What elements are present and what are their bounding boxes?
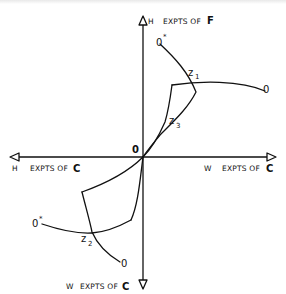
lower-o-star-label: 0 <box>32 218 38 229</box>
lower-o-star-sup: * <box>39 215 43 223</box>
arrow-down-icon <box>139 280 147 289</box>
z3-sub: 3 <box>176 122 180 130</box>
z1-label: z <box>188 67 193 78</box>
axis-up-letter: F <box>207 15 214 26</box>
z3-label: z <box>169 115 174 126</box>
axis-up-text: EXPTS OF <box>163 17 201 26</box>
z2-sub: 2 <box>88 240 92 248</box>
origin-label: 0 <box>132 144 139 155</box>
offer-curve-diagram: 0 H EXPTS OF F H EXPTS OF C W EXPTS OF C… <box>0 0 286 294</box>
axis-down-text: EXPTS OF <box>80 282 118 291</box>
axis-right-letter: C <box>266 163 273 174</box>
axis-left-letter: C <box>73 163 80 174</box>
arrow-up-icon <box>139 16 147 25</box>
arrow-right-icon <box>267 153 276 161</box>
axis-right-prefix: W <box>204 164 212 173</box>
upper-offer-curve-o <box>172 82 265 91</box>
axis-up-prefix: H <box>148 17 154 26</box>
axis-left-text: EXPTS OF <box>30 164 68 173</box>
lower-loop-left-edge <box>82 192 120 262</box>
axis-right-text: EXPTS OF <box>222 164 260 173</box>
lower-loop-upper-edge <box>82 157 143 192</box>
axis-left-prefix: H <box>12 164 18 173</box>
upper-o-label: 0 <box>263 84 269 95</box>
z2-label: z <box>81 233 86 244</box>
lower-offer-curve-ostar <box>42 220 131 233</box>
z1-sub: 1 <box>195 73 199 81</box>
arrow-left-icon <box>10 153 19 161</box>
upper-loop-side <box>143 85 172 157</box>
upper-o-star-label: 0 <box>156 37 162 48</box>
axis-down-prefix: W <box>66 282 74 291</box>
axis-down-letter: C <box>122 281 129 292</box>
upper-o-star-sup: * <box>163 33 167 41</box>
lower-o-label: 0 <box>121 258 127 269</box>
